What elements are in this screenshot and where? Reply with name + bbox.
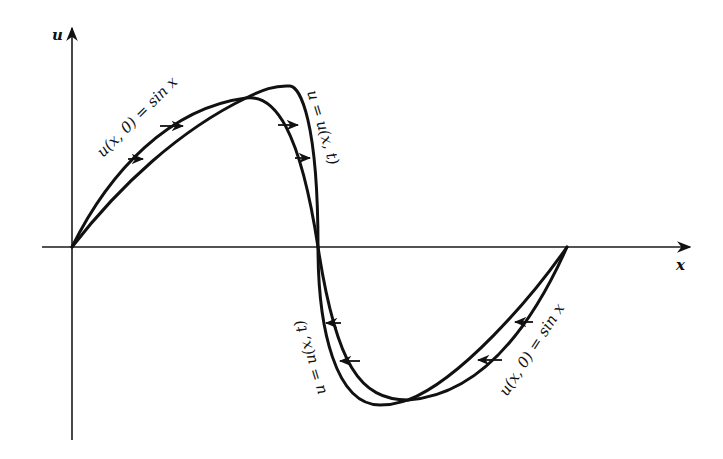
axes: u x [42, 26, 690, 440]
diagram-svg: u x u(x, 0) = sin x u = u(x, t) u = u(x,… [0, 0, 723, 459]
x-axis-label: x [675, 256, 686, 274]
upper-arrows [128, 125, 310, 159]
y-axis-label: u [52, 26, 63, 44]
wave-steepening-diagram: u x u(x, 0) = sin x u = u(x, t) u = u(x,… [0, 0, 723, 459]
